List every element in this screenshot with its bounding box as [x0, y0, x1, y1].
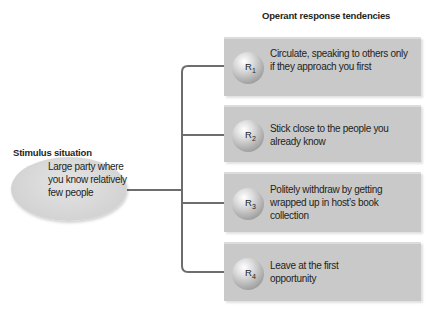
- response-text-3: Politely withdraw by getting wrapped up …: [270, 183, 410, 222]
- response-text-1: Circulate, speaking to others only if th…: [270, 47, 410, 73]
- sphere-icon: R3: [232, 188, 264, 220]
- responses-title: Operant response tendencies: [262, 10, 390, 21]
- response-label-2: R2: [245, 129, 256, 142]
- response-box-3: R3 Politely withdraw by getting wrapped …: [224, 172, 421, 232]
- response-box-1: R1 Circulate, speaking to others only if…: [224, 37, 421, 96]
- response-label-4: R4: [245, 267, 256, 280]
- response-box-4: R4 Leave at the first opportunity: [224, 242, 421, 301]
- response-text-4: Leave at the first opportunity: [270, 259, 380, 285]
- stimulus-text: Large party where you know relatively fe…: [48, 160, 128, 199]
- sphere-icon: R2: [232, 120, 264, 152]
- response-text-2: Stick close to the people you already kn…: [270, 122, 410, 148]
- sphere-icon: R1: [232, 52, 264, 84]
- response-box-2: R2 Stick close to the people you already…: [224, 105, 421, 162]
- sphere-icon: R4: [232, 258, 264, 290]
- stimulus-title: Stimulus situation: [13, 147, 92, 158]
- response-label-3: R3: [245, 197, 256, 210]
- response-label-1: R1: [245, 61, 256, 74]
